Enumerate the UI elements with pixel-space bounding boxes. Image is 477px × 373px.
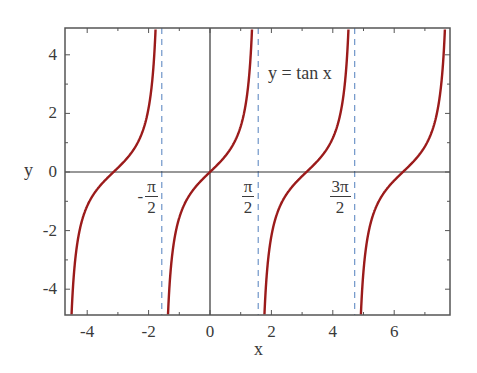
y-tick-label: -4	[27, 280, 57, 297]
annotation-label: y = tan x	[268, 64, 332, 82]
x-tick-label: -4	[80, 323, 94, 340]
tan-chart	[0, 0, 477, 373]
y-tick-label: 4	[27, 46, 57, 63]
x-tick-label: -2	[142, 323, 156, 340]
x-tick-label: 6	[390, 323, 399, 340]
y-tick-label: 2	[27, 104, 57, 121]
x-axis-label: x	[254, 340, 263, 358]
axes-lines	[65, 28, 450, 315]
y-axis-label: y	[24, 161, 33, 179]
asymptote-label: 3π2	[330, 178, 351, 216]
x-tick-label: 0	[206, 323, 215, 340]
asymptote-label: -π2	[138, 178, 158, 216]
asymptote-label: π2	[242, 178, 255, 216]
x-tick-label: 2	[267, 323, 276, 340]
y-tick-label: -2	[27, 222, 57, 239]
x-tick-label: 4	[329, 323, 338, 340]
